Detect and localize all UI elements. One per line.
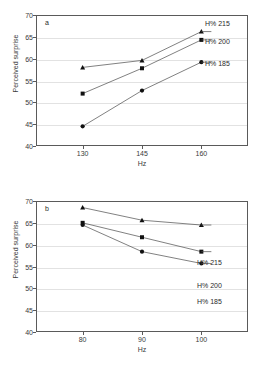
y-tick-label: 40 [3, 143, 33, 150]
y-tick-label: 45 [3, 121, 33, 128]
x-tick-mark [83, 146, 84, 149]
x-tick-label: 160 [196, 150, 208, 157]
x-tick-label: 145 [136, 150, 148, 157]
data-point-circle [140, 88, 144, 92]
data-point-circle [81, 124, 85, 128]
x-tick-label: 90 [138, 336, 146, 343]
x-tick-label: 100 [196, 336, 208, 343]
legend-label-h200-panel-a: H% 200 [205, 38, 230, 45]
x-tick-mark [83, 332, 84, 335]
legend-label-h215-panel-b: H% 215 [197, 259, 222, 266]
legend-label-h185-panel-a: H% 185 [205, 60, 230, 67]
legend-label-h200-panel-b: H% 200 [197, 282, 222, 289]
x-axis-title-panel-b: Hz [36, 346, 248, 353]
data-point-triangle [80, 205, 85, 210]
data-point-square [140, 66, 144, 70]
series-line-h-185 [83, 62, 202, 126]
chart-panel-a: 40455055606570 Perceived surprise a 1301… [0, 0, 261, 186]
figure-container: 40455055606570 Perceived surprise a 1301… [0, 0, 261, 372]
series-line-h-215 [83, 208, 202, 225]
y-tick-label: 40 [3, 329, 33, 336]
x-tick-mark [142, 332, 143, 335]
data-point-triangle [140, 58, 145, 63]
y-tick-label: 70 [3, 12, 33, 19]
x-tick-mark [142, 146, 143, 149]
data-point-square [140, 235, 144, 239]
chart-panel-b: 40455055606570 Perceived surprise b 8090… [0, 186, 261, 372]
series-plot-panel-a [36, 15, 248, 146]
legend-label-h215-panel-a: H% 215 [205, 20, 230, 27]
y-axis-title-panel-a: Perceived surprise [12, 24, 19, 104]
y-tick-label: 70 [3, 198, 33, 205]
data-point-circle [140, 250, 144, 254]
x-tick-mark [201, 332, 202, 335]
data-point-circle [81, 223, 85, 227]
data-point-square [81, 92, 85, 96]
y-axis-title-panel-b: Perceived surprise [12, 210, 19, 290]
series-line-h-185 [83, 225, 202, 263]
series-plot-panel-b [36, 201, 248, 332]
x-tick-label: 130 [77, 150, 89, 157]
x-tick-mark [201, 146, 202, 149]
x-tick-label: 80 [79, 336, 87, 343]
legend-label-h185-panel-b: H% 185 [197, 298, 222, 305]
y-tick-label: 45 [3, 307, 33, 314]
x-axis-title-panel-a: Hz [36, 160, 248, 167]
